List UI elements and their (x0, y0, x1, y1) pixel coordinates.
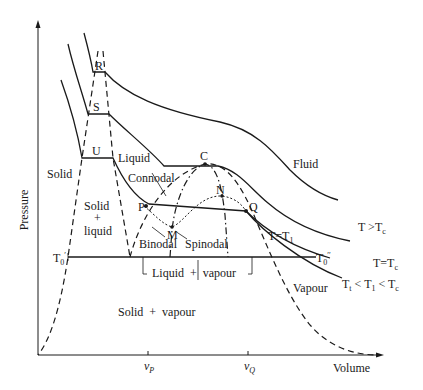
van-der-waals-loop (144, 196, 246, 227)
axes (36, 20, 385, 358)
region-solid-liquid-line3: liquid (84, 224, 112, 238)
binodal-curve (130, 164, 378, 355)
lv-bracket-left (143, 257, 147, 274)
t0-prime-label: T0′ (53, 251, 66, 267)
isotherm-above-critical-label: T >Tc (358, 220, 386, 236)
point-u-label: U (92, 144, 101, 158)
vp-label: vP (144, 359, 154, 375)
region-solid-liquid-line2: + (94, 211, 101, 225)
region-solid-label: Solid (47, 167, 72, 181)
lv-bracket-right (248, 257, 252, 274)
point-q (244, 209, 248, 213)
binodal-label: Binodal (139, 237, 178, 251)
region-vapour-label: Vapour (293, 281, 328, 295)
isotherm-critical (68, 44, 350, 241)
point-c-label: C (200, 149, 208, 163)
region-liquid-vapour-label: Liquid + vapour (152, 266, 236, 280)
region-solid-vapour-label: Solid + vapour (118, 305, 195, 319)
t0-double-prime-label: T0′′ (316, 251, 331, 267)
binodal-leader (152, 227, 165, 237)
region-fluid-label: Fluid (293, 157, 318, 171)
spinodal-label: Spinodal (185, 237, 228, 251)
pressure-axis-arrow-icon (36, 20, 41, 28)
phase-diagram: Pressure Volume vP vQ R S U C P Q M N T0… (0, 0, 423, 390)
point-s-label: S (93, 100, 100, 114)
point-q-label: Q (249, 200, 258, 214)
point-n-label: N (216, 183, 225, 197)
point-p-label: P (138, 200, 145, 214)
volume-axis-arrow-icon (376, 353, 384, 358)
vq-label: vQ (244, 359, 255, 375)
pressure-label: Pressure (17, 190, 31, 231)
connodal-label: Connodal (128, 171, 175, 185)
point-r-label: R (95, 59, 103, 73)
isotherm-critical-label: T=Tc (373, 256, 398, 272)
isotherm-t1-label: T=T1 (268, 229, 293, 245)
isotherm-between-label: Tt < T1 < Tc (342, 277, 399, 293)
region-liquid-label: Liquid (118, 151, 150, 165)
volume-label: Volume (333, 361, 370, 375)
